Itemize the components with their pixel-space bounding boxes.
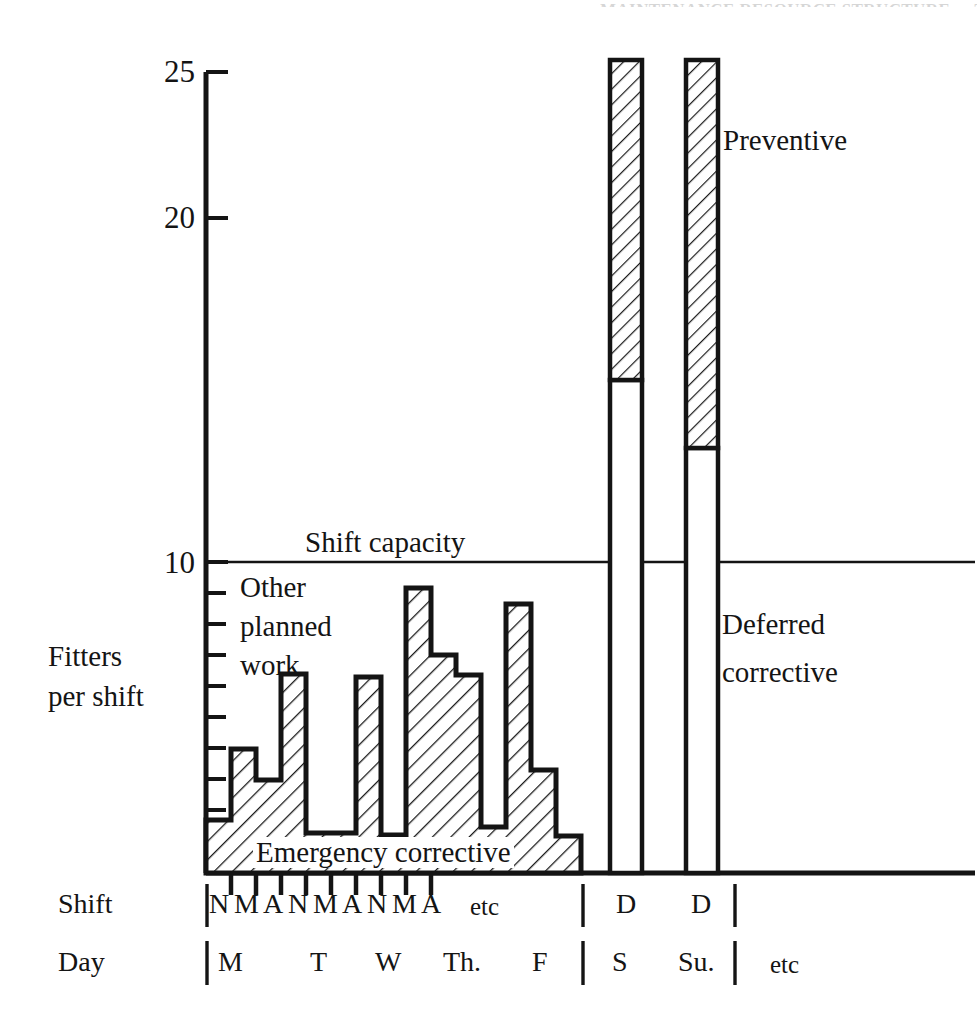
shift-etc-label: etc <box>470 894 499 919</box>
bar-saturday-deferred <box>610 380 642 873</box>
y-axis-major-ticks <box>206 72 228 562</box>
other-planned-work-label-line3: work <box>240 651 300 680</box>
shift-label-4: M <box>313 890 338 918</box>
shift-capacity-label: Shift capacity <box>305 528 465 557</box>
y-axis-title-line1: Fitters <box>48 642 122 671</box>
y-axis-minor-ticks <box>206 593 226 841</box>
other-planned-work-label-line1: Other <box>240 573 306 602</box>
deferred-corrective-label-line1: Deferred <box>722 610 825 639</box>
day-label-3: Th. <box>443 948 481 976</box>
day-label-weekend-1: Su. <box>678 948 715 976</box>
shift-label-weekend-0: D <box>616 890 636 918</box>
shift-label-7: M <box>392 890 417 918</box>
preventive-label: Preventive <box>723 126 847 155</box>
shift-row-header: Shift <box>58 890 112 918</box>
y-axis-title-line2: per shift <box>48 682 144 711</box>
day-label-4: F <box>532 948 548 976</box>
bar-sunday-preventive <box>686 60 718 448</box>
day-label-2: W <box>375 948 401 976</box>
bar-sunday-deferred <box>686 448 718 873</box>
day-label-0: M <box>218 948 243 976</box>
deferred-corrective-label-line2: corrective <box>722 658 838 687</box>
weekend-bar-sunday <box>686 60 718 873</box>
shift-label-6: N <box>367 890 387 918</box>
shift-label-2: A <box>263 890 283 918</box>
day-row-header: Day <box>58 948 105 976</box>
shift-label-weekend-1: D <box>691 890 711 918</box>
shift-label-5: A <box>342 890 362 918</box>
y-tick-label-20: 20 <box>150 202 195 233</box>
shift-label-3: N <box>288 890 308 918</box>
y-tick-label-10: 10 <box>150 547 195 578</box>
y-tick-label-25: 25 <box>150 56 195 87</box>
day-label-weekend-0: S <box>612 948 628 976</box>
shift-label-1: M <box>234 890 259 918</box>
weekend-bar-saturday <box>610 60 642 873</box>
bar-saturday-preventive <box>610 60 642 380</box>
day-label-1: T <box>310 948 327 976</box>
emergency-corrective-label: Emergency corrective <box>253 837 514 868</box>
maintenance-workload-chart: 25 20 10 Fitters per shift Shift capacit… <box>0 0 977 1024</box>
shift-label-0: N <box>209 890 229 918</box>
day-etc-label: etc <box>770 952 799 977</box>
shift-label-8: A <box>421 890 441 918</box>
other-planned-work-label-line2: planned <box>240 612 332 641</box>
